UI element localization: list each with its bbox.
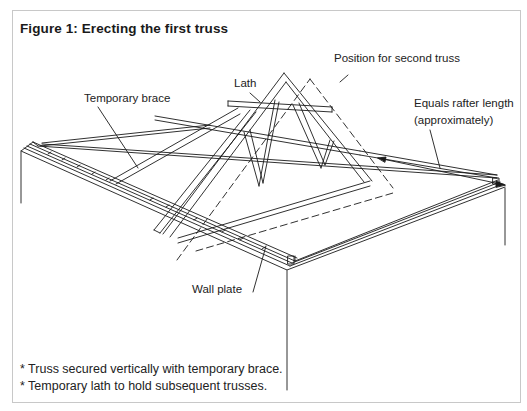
note-item: * Truss secured vertically with temporar… [20, 361, 283, 378]
walls [21, 152, 505, 390]
figure-notes: * Truss secured vertically with temporar… [20, 361, 283, 395]
leader-lines [98, 75, 440, 292]
second-truss-outline [177, 79, 393, 260]
label-rafter-length-approx: (approximately) [414, 114, 493, 126]
lath [228, 101, 332, 112]
label-temporary-brace: Temporary brace [84, 92, 170, 104]
label-position-second-truss: Position for second truss [334, 52, 460, 64]
truss-rafters [163, 73, 372, 237]
wall-plate-front-right [287, 178, 505, 270]
temporary-braces [110, 108, 256, 233]
note-item: * Temporary lath to hold subsequent trus… [20, 378, 283, 395]
label-wall-plate: Wall plate [192, 283, 242, 295]
back-left-rail [40, 125, 210, 146]
label-lath: Lath [234, 77, 256, 89]
label-rafter-length: Equals rafter length [414, 97, 514, 109]
